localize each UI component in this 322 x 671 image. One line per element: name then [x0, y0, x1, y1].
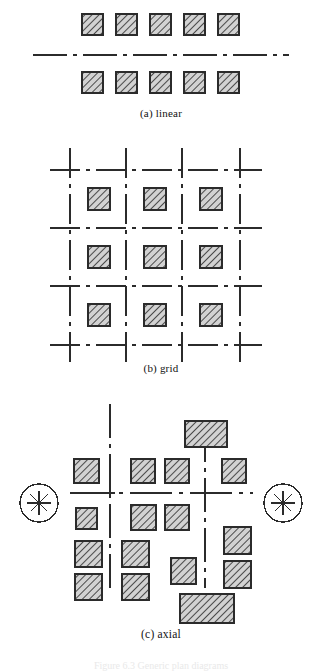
block [75, 574, 102, 600]
block [171, 558, 196, 584]
linear-blocks-bottom [82, 72, 239, 93]
block [184, 14, 205, 35]
linear-diagram [0, 0, 322, 104]
axial-crosshair [105, 488, 115, 498]
asterisk-icon [27, 491, 51, 515]
block [144, 304, 166, 326]
block [131, 459, 155, 483]
linear-blocks-top [82, 14, 239, 35]
block [82, 72, 103, 93]
block [224, 561, 251, 588]
panel-axial [0, 398, 322, 628]
axial-crosshair [200, 488, 210, 498]
block [74, 459, 99, 483]
panel-caption-axial: (c) axial [0, 628, 322, 641]
right-vista-marker [264, 484, 302, 522]
panel-caption-grid: (b) grid [0, 362, 322, 375]
block [200, 246, 222, 268]
block [76, 508, 97, 529]
block [222, 459, 246, 483]
panel-caption-linear: (a) linear [0, 107, 322, 120]
block [122, 574, 149, 600]
block [180, 594, 234, 623]
figure-container: (a) linear [0, 0, 322, 671]
block [150, 72, 171, 93]
block [88, 304, 110, 326]
axial-diagram [0, 398, 322, 630]
block [165, 505, 189, 530]
block [184, 72, 205, 93]
block [88, 246, 110, 268]
panel-grid [0, 140, 322, 370]
block [200, 304, 222, 326]
block [82, 14, 103, 35]
block [88, 188, 110, 210]
block [150, 14, 171, 35]
block [116, 72, 137, 93]
block [122, 541, 149, 567]
block [224, 527, 251, 554]
left-vista-marker [20, 484, 58, 522]
block [218, 72, 239, 93]
block [185, 421, 227, 447]
axial-blocks [74, 421, 251, 623]
block [75, 541, 102, 567]
block [131, 505, 156, 530]
block [165, 459, 189, 483]
block [218, 14, 239, 35]
block [200, 188, 222, 210]
block [144, 246, 166, 268]
block [116, 14, 137, 35]
asterisk-icon [271, 491, 295, 515]
block [144, 188, 166, 210]
grid-blocks [88, 188, 222, 326]
figure-caption: Figure 6.3 Generic plan diagrams [0, 660, 322, 671]
grid-diagram [0, 140, 322, 375]
